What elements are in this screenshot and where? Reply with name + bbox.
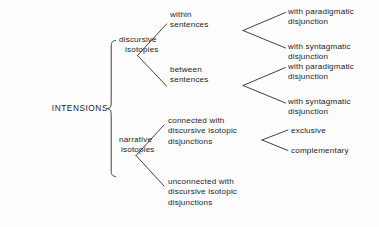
within-fork-lower-edge <box>243 31 286 49</box>
node-within-sentences-line1: within <box>170 10 209 20</box>
node-unconnected-line1: unconnected with <box>168 177 237 187</box>
node-discursive-isotopies-line2: isotopies <box>119 45 159 55</box>
discursive-fork-lower-edge <box>138 56 167 87</box>
node-within-paradigmatic-line2: disjunction <box>288 17 354 27</box>
node-narrative-isotopies-line1: narrative <box>119 135 155 145</box>
node-discursive-isotopies: discursive isotopies <box>119 35 159 56</box>
node-unconnected-with-discursive-isotopic-disjunctions: unconnected with discursive isotopic dis… <box>168 177 237 208</box>
node-discursive-isotopies-line1: discursive <box>119 35 159 45</box>
node-complementary: complementary <box>291 146 349 156</box>
node-intensions-label: INTENSIONS <box>8 103 108 113</box>
node-connected-line3: disjunctions <box>168 137 237 147</box>
node-intensions: INTENSIONS <box>8 103 108 113</box>
node-between-sentences-line1: between <box>170 65 209 75</box>
node-between-paradigmatic-line2: disjunction <box>288 72 354 82</box>
node-connected-line2: discursive isotopic <box>168 126 237 136</box>
within-fork-upper-edge <box>243 13 286 31</box>
node-between-with-paradigmatic-disjunction: with paradigmatic disjunction <box>288 62 354 83</box>
node-narrative-isotopies-line2: isotopies <box>119 145 155 155</box>
node-connected-line1: connected with <box>168 116 237 126</box>
node-within-with-syntagmatic-disjunction: with syntagmatic disjunction <box>288 42 351 63</box>
isotopy-taxonomy-diagram: INTENSIONS discursive isotopies narrativ… <box>0 0 379 227</box>
node-unconnected-line3: disjunctions <box>168 198 237 208</box>
between-fork-upper-edge <box>243 68 286 86</box>
node-connected-with-discursive-isotopic-disjunctions: connected with discursive isotopic disju… <box>168 116 237 147</box>
connected-fork-lower-edge <box>262 140 288 151</box>
node-within-paradigmatic-line1: with paradigmatic <box>288 7 354 17</box>
narrative-fork-lower-edge <box>136 156 164 187</box>
node-narrative-isotopies: narrative isotopies <box>119 135 155 156</box>
node-exclusive: exclusive <box>291 126 326 136</box>
node-exclusive-label: exclusive <box>291 126 326 136</box>
node-between-sentences: between sentences <box>170 65 209 86</box>
between-fork-lower-edge <box>243 86 286 104</box>
node-between-syntagmatic-line2: disjunction <box>288 107 351 117</box>
node-within-syntagmatic-line1: with syntagmatic <box>288 42 351 52</box>
node-between-with-syntagmatic-disjunction: with syntagmatic disjunction <box>288 97 351 118</box>
node-complementary-label: complementary <box>291 146 349 156</box>
node-within-with-paradigmatic-disjunction: with paradigmatic disjunction <box>288 7 354 28</box>
node-unconnected-line2: discursive isotopic <box>168 187 237 197</box>
node-between-sentences-line2: sentences <box>170 75 209 85</box>
node-between-syntagmatic-line1: with syntagmatic <box>288 97 351 107</box>
node-within-sentences: within sentences <box>170 10 209 31</box>
node-within-sentences-line2: sentences <box>170 20 209 30</box>
node-between-paradigmatic-line1: with paradigmatic <box>288 62 354 72</box>
connected-fork-upper-edge <box>262 130 288 140</box>
root-brace <box>107 41 115 177</box>
